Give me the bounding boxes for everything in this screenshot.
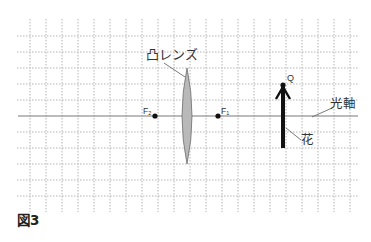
point-q-dot: [280, 82, 285, 87]
lens-label: 凸レンズ: [146, 48, 198, 61]
optical-axis-label: 光軸: [330, 98, 356, 111]
convex-lens-diagram: [0, 0, 371, 242]
flower-label: 花: [301, 134, 314, 147]
focal-point-f2-dot: [152, 113, 157, 118]
point-q-label: Q: [287, 74, 294, 83]
focal-point-f1-dot: [215, 113, 220, 118]
focal-point-f2-label: F2: [143, 107, 151, 117]
f1-subscript: 1: [226, 110, 229, 116]
figure-caption: 図3: [17, 214, 39, 228]
flower-label-leader: [286, 128, 301, 140]
f2-subscript: 2: [148, 110, 151, 116]
focal-point-f1-label: F1: [221, 107, 229, 117]
